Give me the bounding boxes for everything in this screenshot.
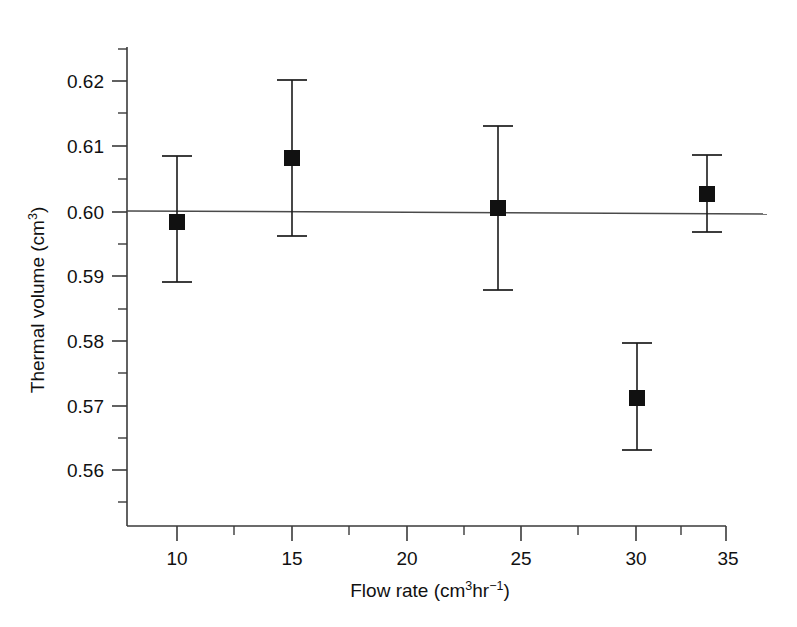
x-axis-title-base3: ) (503, 580, 509, 601)
y-axis-title: Thermal volume (cm3) (26, 207, 48, 393)
y-axis-title-base1: Thermal volume (cm (27, 220, 48, 393)
x-tick-label: 30 (625, 548, 646, 569)
figure-container: 0.62 0.61 0.60 0.59 0.58 0.57 0.56 (0, 0, 797, 627)
y-major-ticks (112, 81, 127, 470)
y-tick-label: 0.61 (67, 136, 104, 157)
x-tick-label: 20 (396, 548, 417, 569)
y-tick-label: 0.59 (67, 266, 104, 287)
x-tick-label: 10 (166, 548, 187, 569)
x-axis-title: Flow rate (cm3hr−1) (350, 579, 510, 601)
caption-strip (0, 600, 797, 627)
marker-square (699, 186, 715, 202)
data-point[interactable] (483, 126, 513, 290)
marker-square (169, 214, 185, 230)
x-axis-title-base2: hr (472, 580, 490, 601)
y-tick-label: 0.58 (67, 331, 104, 352)
marker-square (490, 200, 506, 216)
x-axis-title-base1: Flow rate (cm (350, 580, 465, 601)
y-tick-label: 0.62 (67, 71, 104, 92)
y-tick-label: 0.60 (67, 202, 104, 223)
data-point[interactable] (622, 343, 652, 450)
y-tick-label: 0.56 (67, 460, 104, 481)
x-axis-title-sup1: 3 (465, 579, 472, 593)
marker-square (284, 150, 300, 166)
x-tick-label: 35 (717, 548, 738, 569)
data-point[interactable] (692, 155, 722, 232)
data-point[interactable] (162, 156, 192, 282)
data-series (162, 80, 722, 450)
x-axis-title-sup2: −1 (489, 579, 503, 593)
x-minor-ticks (234, 526, 681, 535)
y-axis-title-base2: ) (27, 207, 48, 213)
y-tick-labels: 0.62 0.61 0.60 0.59 0.58 0.57 0.56 (67, 71, 104, 481)
y-axis-title-sup1: 3 (26, 213, 40, 220)
svg-text:Flow rate (cm3hr−1): Flow rate (cm3hr−1) (350, 579, 510, 601)
marker-square (629, 390, 645, 406)
x-tick-label: 25 (510, 548, 531, 569)
chart-canvas: 0.62 0.61 0.60 0.59 0.58 0.57 0.56 (0, 0, 797, 627)
x-major-ticks (177, 526, 726, 541)
data-point[interactable] (277, 80, 307, 236)
x-tick-label: 15 (281, 548, 302, 569)
svg-text:Thermal volume (cm3): Thermal volume (cm3) (26, 207, 48, 393)
y-tick-label: 0.57 (67, 396, 104, 417)
x-tick-labels: 10 15 20 25 30 35 (166, 548, 738, 569)
reference-line (127, 211, 767, 214)
